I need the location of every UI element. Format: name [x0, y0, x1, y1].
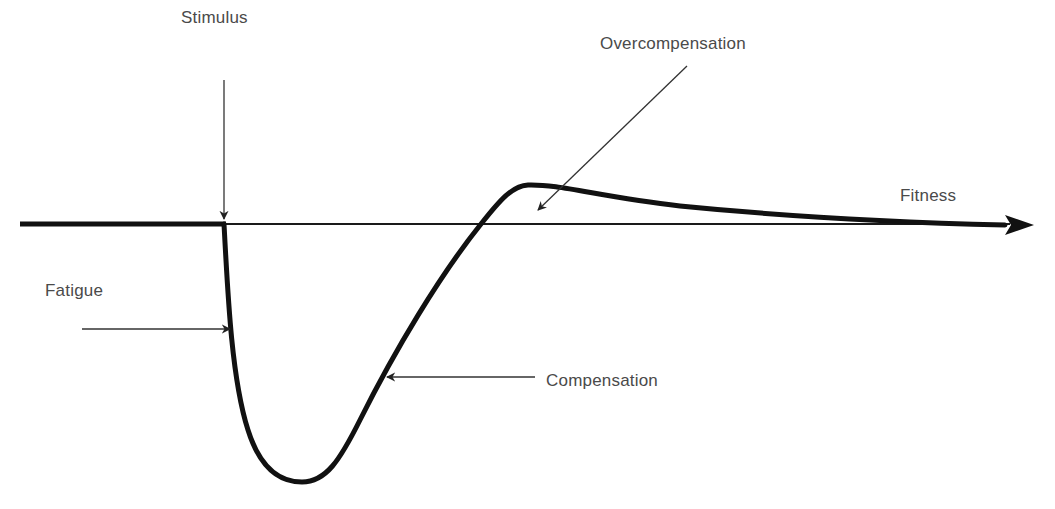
overcompensation-label: Overcompensation	[600, 34, 746, 54]
fitness-curve	[224, 185, 1005, 482]
overcompensation-arrow	[538, 66, 687, 210]
fitness-label: Fitness	[900, 186, 956, 206]
supercompensation-diagram	[0, 0, 1055, 509]
compensation-label: Compensation	[546, 371, 658, 391]
fatigue-label: Fatigue	[45, 281, 103, 301]
stimulus-label: Stimulus	[181, 8, 248, 28]
